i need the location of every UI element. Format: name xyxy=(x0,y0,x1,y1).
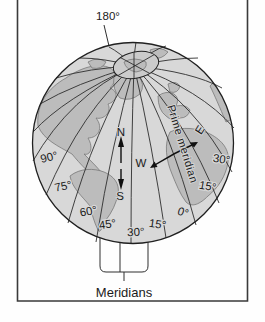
label-180-degrees: 180° xyxy=(96,10,120,22)
compass-north-label: N xyxy=(117,126,125,138)
label-45w: 45° xyxy=(98,217,117,231)
label-30e: 30° xyxy=(212,152,231,166)
pole-leader-line xyxy=(104,25,109,46)
compass-south-label: S xyxy=(116,190,124,202)
meridians-bracket xyxy=(100,238,148,281)
compass-west-label: W xyxy=(136,157,147,169)
label-15w: 15° xyxy=(148,217,167,231)
figure-meridians-diagram: 180° 90° 75° 60° 45° 30° 15° 0° 15° 30° … xyxy=(0,0,265,322)
globe-diagram-svg: 180° 90° 75° 60° 45° 30° 15° 0° 15° 30° … xyxy=(0,0,265,322)
figure-caption: Meridians xyxy=(96,285,153,300)
label-30w: 30° xyxy=(127,226,145,239)
